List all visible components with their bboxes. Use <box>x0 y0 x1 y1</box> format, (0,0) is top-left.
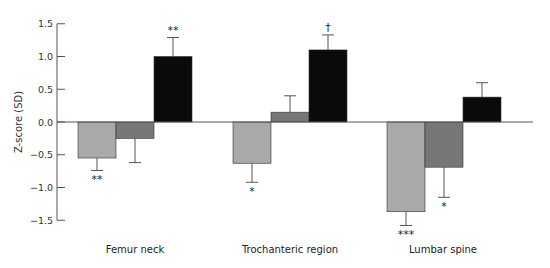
category-label: Lumbar spine <box>409 244 477 255</box>
bar <box>463 97 501 122</box>
y-tick-label: −0.5 <box>30 149 53 160</box>
bar-chart: 1.51.00.50.0−0.5−1.0−1.5 Z-score (SD) **… <box>0 0 550 268</box>
bars: *****†**** <box>78 21 501 242</box>
y-tick-label: −1.0 <box>30 182 53 193</box>
bar <box>116 122 154 138</box>
y-tick-label: 0.5 <box>38 84 53 95</box>
category-label: Trochanteric region <box>241 244 338 255</box>
category-labels: Femur neckTrochanteric regionLumbar spin… <box>106 244 477 255</box>
y-tick-label: 1.5 <box>38 18 53 29</box>
bar <box>271 112 309 122</box>
category-label: Femur neck <box>106 244 165 255</box>
significance-marker: * <box>441 200 447 213</box>
y-tick-label: 1.0 <box>38 51 53 62</box>
bar <box>233 122 271 163</box>
significance-marker: * <box>249 185 255 198</box>
significance-marker: ** <box>168 24 180 37</box>
bar <box>425 122 463 167</box>
significance-marker: † <box>325 21 331 34</box>
y-tick-label: −1.5 <box>30 215 53 226</box>
bar <box>154 57 192 123</box>
y-tick-label: 0.0 <box>38 117 53 128</box>
significance-marker: ** <box>92 173 104 186</box>
bar <box>387 122 425 212</box>
bar <box>78 122 116 158</box>
y-axis-label: Z-score (SD) <box>13 91 24 153</box>
bar <box>309 50 347 122</box>
significance-marker: *** <box>398 228 415 241</box>
